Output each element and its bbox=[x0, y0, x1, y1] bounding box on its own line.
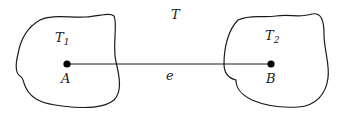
region-t2-outline bbox=[224, 14, 328, 108]
region-t2-label: T2 bbox=[265, 28, 280, 45]
tree-split-diagram: T e T1 A T2 B bbox=[0, 0, 344, 114]
region-t1-label: T1 bbox=[55, 30, 69, 47]
vertex-b-label: B bbox=[265, 71, 276, 86]
vertex-b bbox=[267, 60, 274, 67]
vertex-a bbox=[63, 60, 70, 67]
vertex-a-label: A bbox=[60, 71, 70, 86]
edge-label: e bbox=[166, 68, 174, 83]
graph-label: T bbox=[171, 7, 181, 22]
